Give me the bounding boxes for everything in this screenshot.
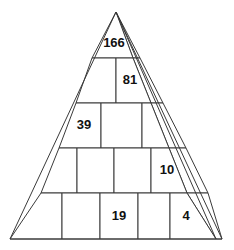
brick-r4c2[interactable] [77,148,114,193]
brick-label-r4c4: 10 [160,162,174,177]
pyramid-row-4: 10 [41,148,187,193]
brick-r5c1[interactable] [10,193,62,239]
brick-r4c1[interactable] [41,148,77,193]
brick-r3c2[interactable] [101,103,142,148]
brick-label-r5c3: 19 [112,208,126,223]
brick-r4c3[interactable] [114,148,151,193]
brick-label-r3c1: 39 [77,117,91,132]
number-pyramid-figure: 166 81 39 10 19 [0,0,234,250]
brick-r5c2[interactable] [62,193,100,239]
pyramid-row-5: 19 4 [10,193,216,239]
brick-label-r1c1: 166 [103,35,125,50]
brick-label-r2c2: 81 [123,72,137,87]
brick-label-r5c5: 4 [182,208,190,223]
brick-r5c4[interactable] [138,193,170,239]
brick-r2c1[interactable] [76,58,116,103]
pyramid-row-3: 39 [59,103,169,148]
